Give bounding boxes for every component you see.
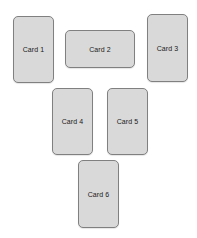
card-6-label: Card 6: [88, 191, 110, 198]
card-canvas: Card 1 Card 2 Card 3 Card 4 Card 5 Card …: [0, 0, 197, 238]
card-4-label: Card 4: [62, 118, 84, 125]
card-4[interactable]: Card 4: [52, 88, 93, 155]
card-3-label: Card 3: [157, 45, 179, 52]
card-1[interactable]: Card 1: [13, 16, 54, 83]
card-3[interactable]: Card 3: [147, 14, 188, 82]
card-5-label: Card 5: [117, 118, 139, 125]
card-5[interactable]: Card 5: [107, 88, 148, 155]
card-6[interactable]: Card 6: [78, 160, 119, 228]
card-2-label: Card 2: [89, 46, 111, 53]
card-2[interactable]: Card 2: [65, 30, 135, 68]
card-1-label: Card 1: [23, 46, 45, 53]
